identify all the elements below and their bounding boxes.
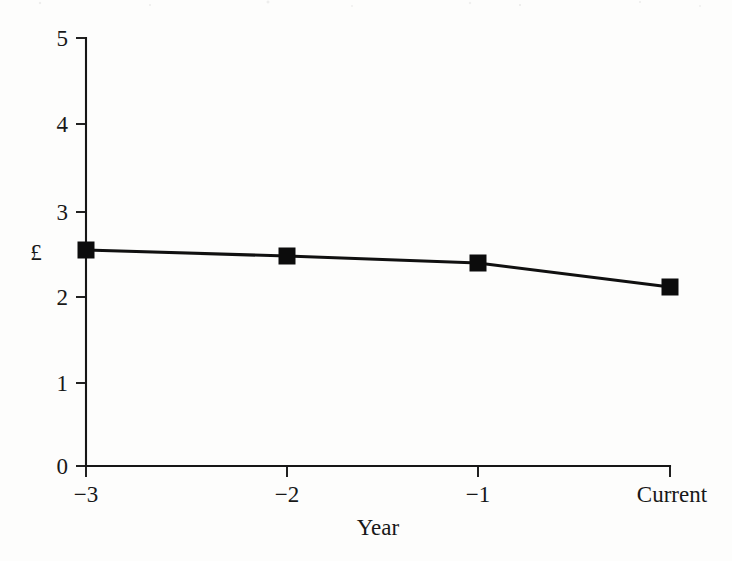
x-tick-label-minus3: −3 — [74, 482, 98, 507]
y-tick-label-4: 4 — [57, 112, 69, 137]
y-tick-label-5: 5 — [57, 26, 69, 51]
data-point-marker — [470, 255, 486, 271]
x-tick-label-minus2: −2 — [275, 482, 299, 507]
chart-figure: 5 4 3 2 1 0 −3 −2 −1 Current £ Year — [0, 0, 732, 561]
data-point-marker — [662, 279, 678, 295]
series-line-path — [86, 250, 670, 287]
y-tick-label-3: 3 — [57, 200, 69, 225]
y-tick-label-2: 2 — [57, 285, 69, 310]
x-tick-label-minus1: −1 — [466, 482, 490, 507]
data-point-marker — [279, 248, 295, 264]
y-axis-title: £ — [30, 240, 42, 265]
x-axis-title: Year — [357, 515, 400, 540]
y-tick-label-0: 0 — [57, 454, 69, 479]
data-point-marker — [78, 242, 94, 258]
y-tick-label-1: 1 — [57, 371, 69, 396]
line-chart-plot: 5 4 3 2 1 0 −3 −2 −1 Current £ Year — [0, 0, 732, 561]
x-tick-label-current: Current — [637, 482, 708, 507]
